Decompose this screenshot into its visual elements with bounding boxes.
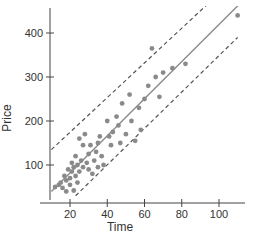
x-tick-label: 60 [138,208,150,220]
x-tick-label: 20 [64,208,76,220]
y-tick-label: 300 [25,71,43,83]
data-point [68,182,73,187]
data-point [77,169,82,174]
data-point [60,185,65,190]
y-tick-label: 200 [25,115,43,127]
data-point [110,130,115,135]
data-point [97,134,102,139]
x-axis-ticks: 20406080100 [64,199,228,220]
data-point [153,75,158,80]
data-point [127,92,132,97]
data-point [146,83,151,88]
data-point [99,154,104,159]
data-point [150,46,155,51]
y-tick-label: 100 [25,159,43,171]
data-point [94,149,99,154]
data-point [129,119,134,124]
data-point [81,143,86,148]
data-point [81,165,86,170]
data-point [123,132,128,137]
data-point [73,174,78,179]
data-points [53,13,240,194]
data-point [109,143,114,148]
data-point [84,160,89,165]
y-axis-title: Price [0,104,14,132]
data-point [77,136,82,141]
data-point [68,176,73,181]
data-point [88,143,93,148]
x-axis-title: Time [107,220,134,234]
data-point [114,114,119,119]
data-point [133,138,138,143]
data-point [62,174,67,179]
data-point [58,180,63,185]
data-point [64,189,69,194]
data-point [118,141,123,146]
data-point [101,163,106,168]
data-point [71,188,76,193]
lower-prediction-band [76,37,238,195]
data-point [137,105,142,110]
upper-prediction-band [51,2,209,149]
data-point [170,66,175,71]
data-point [107,134,112,139]
data-point [183,61,188,66]
data-point [92,158,97,163]
y-tick-label: 400 [25,27,43,39]
data-point [73,154,78,159]
data-point [69,160,74,165]
data-point [79,158,84,163]
data-point [90,171,95,176]
data-point [96,165,101,170]
x-tick-label: 40 [101,208,113,220]
data-point [157,94,162,99]
data-point [161,70,166,75]
data-point [83,132,88,137]
data-point [235,13,240,18]
data-point [120,101,125,106]
x-tick-label: 100 [210,208,228,220]
data-point [138,127,143,132]
data-point [75,180,80,185]
data-point [69,169,74,174]
scatter-plot: 100200300400 20406080100 Price Time [0,0,253,239]
data-point [86,152,91,157]
x-tick-label: 80 [176,208,188,220]
data-point [116,123,121,128]
data-point [96,141,101,146]
data-point [86,167,91,172]
data-point [142,97,147,102]
data-point [75,163,80,168]
data-point [105,119,110,124]
regression-line [51,2,241,191]
